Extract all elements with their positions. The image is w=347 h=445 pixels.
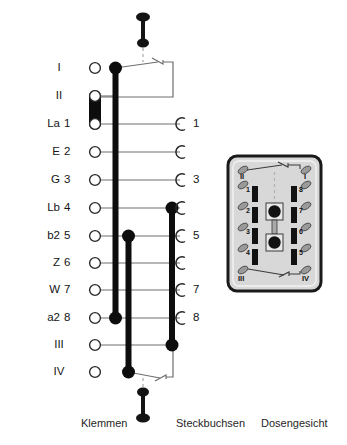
bridge-end-circle-la1 — [90, 119, 101, 130]
terminal-circle-a28 — [90, 313, 101, 324]
bottom-actuator-head — [136, 413, 150, 422]
terminal-circle-iii — [90, 340, 101, 351]
terminal-name-g3: G — [26, 174, 60, 186]
caption-klemmen: Klemmen — [81, 418, 127, 429]
terminal-number-2: 2 — [64, 146, 70, 158]
junction-dot-iii — [166, 339, 179, 352]
blade-contact-1 — [252, 186, 258, 202]
socket-number-8: 8 — [193, 312, 199, 324]
junction-dot-contact-iv — [122, 366, 135, 379]
socket-face-pin-4: 4 — [246, 249, 250, 256]
terminal-number-iii: III — [46, 339, 72, 351]
socket-number-3: 3 — [193, 174, 199, 186]
blade-contact-8 — [291, 186, 297, 202]
terminal-number-8: 8 — [64, 312, 70, 324]
bottom-switch-fixed-contact — [155, 375, 166, 381]
terminal-number-7: 7 — [64, 284, 70, 296]
socket-face-armature-node-lower — [268, 236, 280, 248]
terminal-name-la1: La — [26, 118, 60, 130]
terminal-name-lb4: Lb — [26, 202, 60, 214]
socket-face-pin-7: 7 — [299, 207, 303, 214]
blade-contact-6 — [291, 228, 297, 244]
socket-face-label-ii: II — [240, 173, 244, 181]
socket-number-5: 5 — [193, 230, 199, 242]
caption-steckbuchsen: Steckbuchsen — [176, 418, 245, 429]
top-actuator-collar — [137, 38, 149, 47]
terminal-number-ii: II — [46, 90, 72, 102]
terminal-number-6: 6 — [64, 257, 70, 269]
terminal-number-1: 1 — [64, 118, 70, 130]
terminal-name-e2: E — [26, 146, 60, 158]
terminal-circle-w7 — [90, 285, 101, 296]
junction-dot-group — [109, 62, 179, 379]
junction-dot-a2-8 — [109, 312, 122, 325]
socket-face-armature-node-upper — [268, 205, 280, 217]
socket-face-pin-6: 6 — [299, 228, 303, 235]
socket-face-label-i: I — [304, 173, 306, 181]
socket-face-pin-8: 8 — [299, 186, 303, 193]
socket-face-pin-3: 3 — [246, 228, 250, 235]
caption-dosengesicht: Dosengesicht — [261, 418, 328, 429]
blade-contact-3 — [252, 228, 258, 244]
terminal-number-3: 3 — [64, 174, 70, 186]
bottom-actuator-group — [136, 378, 150, 423]
terminal-name-b25: b2 — [26, 230, 60, 242]
terminal-number-iv: IV — [46, 366, 72, 378]
bottom-switch-group — [128, 345, 173, 381]
terminal-circle-lb4 — [90, 203, 101, 214]
terminal-number-i: I — [46, 62, 72, 74]
junction-dot-b2-5 — [122, 230, 135, 243]
top-actuator-group — [136, 12, 150, 62]
bridge-end-circle-ii — [90, 91, 101, 102]
terminal-circle-z6 — [90, 258, 101, 269]
socket-face-pin-2: 2 — [246, 207, 250, 214]
terminal-name-z6: Z — [26, 257, 60, 269]
blade-contact-7 — [291, 207, 297, 223]
socket-number-7: 7 — [193, 284, 199, 296]
terminal-circle-g3 — [90, 175, 101, 186]
terminal-name-a28: a2 — [26, 312, 60, 324]
socket-face-pin-5: 5 — [299, 249, 303, 256]
terminal-circle-i — [90, 63, 101, 74]
blade-contact-2 — [252, 207, 258, 223]
blade-contact-4 — [252, 249, 258, 265]
socket-face-armature-shaft — [272, 220, 277, 234]
socket-symbol-group — [176, 118, 185, 324]
socket-face-label-iv: IV — [302, 275, 309, 283]
terminal-number-4: 4 — [64, 202, 70, 214]
terminal-circle-iv — [90, 367, 101, 378]
bottom-actuator-collar — [137, 387, 149, 396]
socket-face-label-iii: III — [238, 275, 244, 283]
terminal-number-5: 5 — [64, 230, 70, 242]
blade-contact-5 — [291, 249, 297, 265]
wiring-diagram: La E G Lb b2 Z W a2 I II 1 2 3 4 5 6 7 8… — [0, 0, 347, 445]
terminal-circle-b25 — [90, 231, 101, 242]
socket-number-1: 1 — [193, 118, 199, 130]
terminal-name-w7: W — [26, 284, 60, 296]
junction-dot-contact-i — [109, 62, 122, 75]
top-actuator-head — [136, 12, 150, 21]
terminal-circle-e2 — [90, 147, 101, 158]
socket-face-pin-1: 1 — [246, 186, 250, 193]
